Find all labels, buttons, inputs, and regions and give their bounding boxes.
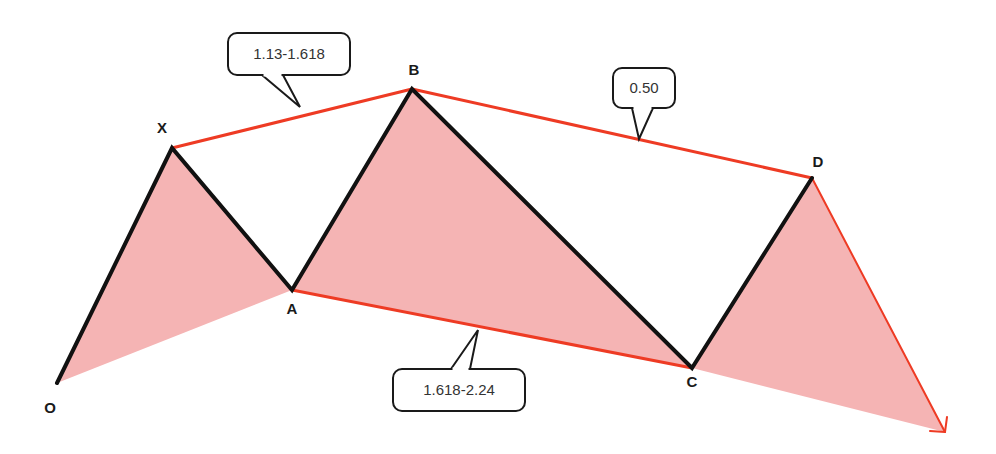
shaded-triangle-1 xyxy=(292,89,692,368)
callout-ac: 1.618-2.24 xyxy=(393,330,525,411)
callout-label-xb: 1.13-1.618 xyxy=(253,45,325,62)
callout-label-bd: 0.50 xyxy=(629,79,658,96)
callout-xb: 1.13-1.618 xyxy=(228,33,350,107)
point-label-o: O xyxy=(44,399,56,416)
harmonic-pattern-diagram: OXABCD 1.13-1.6180.501.618-2.24 xyxy=(0,0,996,454)
point-label-d: D xyxy=(813,153,824,170)
point-label-x: X xyxy=(157,119,167,136)
callout-bd: 0.50 xyxy=(613,68,675,139)
shaded-triangle-0 xyxy=(57,148,292,383)
point-label-b: B xyxy=(409,61,420,78)
point-label-c: C xyxy=(687,373,698,390)
callout-label-ac: 1.618-2.24 xyxy=(423,381,495,398)
point-label-a: A xyxy=(287,300,298,317)
